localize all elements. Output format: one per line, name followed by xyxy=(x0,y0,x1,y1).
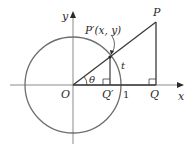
angle-arc xyxy=(84,77,87,85)
arc-t-label: t xyxy=(121,60,126,71)
right-angle-mark-q-prime xyxy=(103,79,110,85)
point-q-prime-label: Q′ xyxy=(102,88,114,101)
angle-theta-label: θ xyxy=(89,74,95,85)
x-axis-arrow-icon xyxy=(177,82,184,88)
y-axis-label: y xyxy=(61,10,69,23)
x-axis-label: x xyxy=(178,90,185,103)
right-angle-mark-q xyxy=(149,79,156,85)
point-p-prime-label: P′(x, y) xyxy=(84,24,121,36)
point-q-label: Q xyxy=(150,88,159,101)
point-p-prime-dot xyxy=(108,55,111,58)
origin-label: O xyxy=(61,88,70,101)
unit-label: 1 xyxy=(123,89,129,100)
unit-circle-diagram: y x O P P′(x, y) Q Q′ θ t 1 xyxy=(0,0,192,146)
y-axis-arrow-icon xyxy=(70,11,76,18)
point-p-label: P xyxy=(152,6,161,19)
label-pointer-arrow xyxy=(112,36,115,53)
